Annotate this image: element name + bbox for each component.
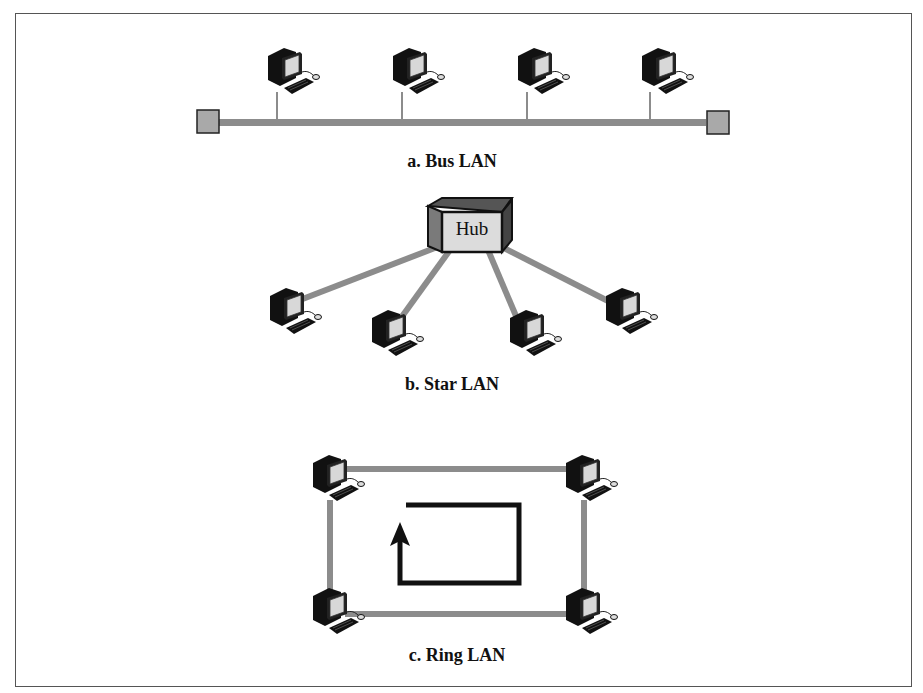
bus-drop-lines — [277, 92, 650, 120]
hub-label: Hub — [456, 218, 489, 240]
bus-lan — [197, 48, 729, 134]
computer-icon — [393, 48, 445, 94]
computer-icon — [518, 48, 570, 94]
computer-icon — [566, 455, 618, 501]
caption-star-lan: b. Star LAN — [405, 374, 499, 395]
computer-icon — [372, 310, 424, 356]
computer-icon — [566, 588, 618, 634]
bus-cable — [219, 119, 706, 126]
computer-icon — [510, 310, 562, 356]
caption-bus-lan: a. Bus LAN — [407, 151, 497, 172]
lan-topologies-diagram — [0, 0, 923, 693]
computer-icon — [606, 288, 658, 334]
terminator-right — [707, 111, 729, 134]
caption-ring-lan: c. Ring LAN — [409, 645, 506, 666]
computer-icon — [268, 48, 320, 94]
computer-icon — [642, 48, 694, 94]
terminator-left — [197, 110, 219, 133]
computer-icon — [313, 455, 365, 501]
ring-lan — [313, 455, 618, 634]
ring-direction-arrow — [400, 505, 519, 583]
